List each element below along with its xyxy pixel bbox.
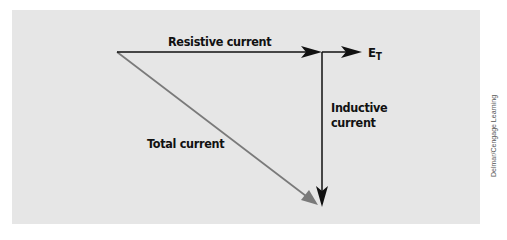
et-subscript: T (376, 51, 382, 62)
total-current-arrowhead-icon (301, 190, 318, 205)
total-current-vector (117, 52, 318, 205)
et-label: ET (368, 45, 382, 64)
inductive-label-line1: Inductive (331, 100, 387, 115)
inductive-label-line2: current (331, 115, 387, 130)
inductive-current-label: Inductive current (331, 100, 387, 130)
inductive-current-vector (316, 52, 328, 207)
image-credit: Delmar/Cengage Learning (490, 95, 497, 177)
resistive-current-label: Resistive current (168, 34, 271, 49)
total-current-label: Total current (147, 136, 224, 151)
et-reference-vector (322, 46, 362, 58)
et-main: E (368, 45, 376, 60)
